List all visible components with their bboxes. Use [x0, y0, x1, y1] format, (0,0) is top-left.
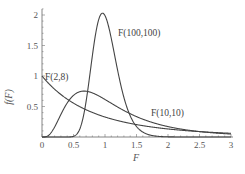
- curve-f-2-8-: [42, 76, 231, 133]
- curve-label: F(100,100): [118, 28, 161, 39]
- y-tick-label: 2: [34, 10, 39, 20]
- y-tick-label: 1: [34, 71, 39, 81]
- x-tick-label: 2: [166, 140, 171, 150]
- y-tick-label: 1.5: [27, 41, 39, 51]
- x-tick-label: 1: [103, 140, 108, 150]
- x-axis-title: F: [132, 152, 140, 163]
- x-tick-label: 0: [40, 140, 45, 150]
- f-distribution-chart: 00.511.522.530.511.52 F(2,8)F(10,10)F(10…: [0, 0, 245, 174]
- x-tick-label: 2.5: [194, 140, 206, 150]
- x-tick-label: 0.5: [68, 140, 80, 150]
- x-tick-label: 1.5: [131, 140, 143, 150]
- curve-label: F(10,10): [151, 108, 184, 119]
- y-axis-title: f(F): [3, 89, 15, 105]
- curve-label: F(2,8): [45, 72, 69, 83]
- x-tick-label: 3: [229, 140, 234, 150]
- curve-f-10-10-: [42, 91, 231, 137]
- y-tick-label: 0.5: [27, 102, 39, 112]
